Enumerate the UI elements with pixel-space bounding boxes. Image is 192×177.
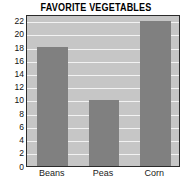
y-axis-tick-label: 4 — [0, 136, 24, 145]
y-axis-tick-label: 8 — [0, 110, 24, 119]
y-axis-tick-label: 16 — [0, 57, 24, 66]
chart-container: FAVORITE VEGETABLES 0246810121416182022 … — [0, 0, 192, 177]
y-axis-tick-label: 2 — [0, 149, 24, 158]
y-axis-tick-label: 12 — [0, 83, 24, 92]
plot-area — [26, 15, 180, 167]
bar-beans — [37, 47, 68, 166]
x-axis-tick-label: Beans — [26, 168, 77, 177]
x-axis-tick-label: Corn — [129, 168, 180, 177]
y-axis-tick-label: 10 — [0, 96, 24, 105]
bar-peas — [89, 100, 120, 166]
y-axis-tick-label: 20 — [0, 30, 24, 39]
x-axis-tick-label: Peas — [77, 168, 128, 177]
y-axis-tick-label: 6 — [0, 123, 24, 132]
plot-inner — [27, 16, 179, 166]
y-axis-tick-label: 14 — [0, 70, 24, 79]
y-axis-tick-labels: 0246810121416182022 — [0, 15, 24, 167]
y-axis-tick-label: 22 — [0, 17, 24, 26]
x-axis-tick-labels: BeansPeasCorn — [26, 168, 180, 177]
chart-title: FAVORITE VEGETABLES — [13, 1, 178, 13]
y-axis-tick-label: 18 — [0, 44, 24, 53]
bar-corn — [140, 21, 171, 166]
y-axis-tick-label: 0 — [0, 163, 24, 172]
